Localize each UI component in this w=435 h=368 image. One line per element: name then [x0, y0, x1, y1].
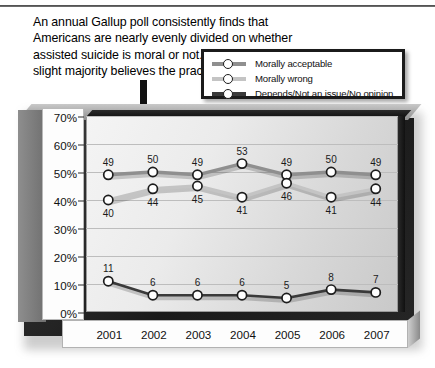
data-point-label: 41	[236, 205, 247, 216]
data-point-label: 6	[150, 277, 156, 288]
data-point-marker	[371, 184, 380, 193]
y-axis-tick-mark	[78, 173, 84, 174]
data-point-marker	[148, 291, 157, 300]
x-axis-tick-label: 2003	[186, 328, 212, 341]
y-axis-tick-mark	[78, 145, 84, 146]
legend-item-1[interactable]: Morally wrong	[212, 71, 402, 85]
data-point-marker	[148, 167, 157, 176]
y-axis-tick-label: 10%	[54, 279, 77, 292]
x-axis-tick-label: 2006	[319, 328, 345, 341]
data-point-label: 11	[103, 263, 113, 274]
data-point-marker	[282, 179, 291, 188]
data-point-label: 50	[326, 154, 337, 165]
x-axis-tick-label: 2005	[275, 328, 301, 341]
y-axis-panel: 0%10%20%30%40%50%60%70%	[42, 108, 84, 320]
data-point-marker	[237, 193, 246, 202]
legend-item-0[interactable]: Morally acceptable	[212, 56, 402, 70]
data-point-label: 40	[103, 208, 114, 219]
data-point-label: 6	[195, 277, 201, 288]
data-point-label: 41	[326, 205, 337, 216]
data-point-marker	[327, 167, 336, 176]
data-point-marker	[282, 293, 291, 302]
plot-right-edge	[398, 116, 405, 312]
data-point-label: 53	[236, 145, 247, 156]
plot-area: 495049534950494044454146414411666587	[86, 116, 398, 312]
top-divider-rule	[0, 5, 435, 7]
y-axis-tick-mark	[78, 313, 84, 314]
y-axis-tick-mark	[78, 285, 84, 286]
chart-legend: Morally acceptableMorally wrongDepends/N…	[201, 49, 405, 99]
data-point-label: 6	[239, 277, 245, 288]
legend-item-label: Morally acceptable	[255, 58, 332, 69]
data-point-marker	[371, 288, 380, 297]
chart-frame: 0%10%20%30%40%50%60%70% 4950495349504940…	[18, 104, 414, 336]
data-point-marker	[148, 184, 157, 193]
legend-swatch-icon	[212, 73, 246, 84]
data-point-label: 44	[147, 196, 158, 207]
y-axis-tick-label: 0%	[60, 307, 77, 320]
x-axis-panel: 2001200220032004200520062007	[62, 320, 408, 348]
data-point-label: 50	[147, 154, 158, 165]
y-axis-tick-mark	[78, 117, 84, 118]
x-axis-tick-label: 2007	[364, 328, 390, 341]
legend-item-label: Morally wrong	[255, 73, 313, 84]
data-point-label: 8	[328, 271, 334, 282]
y-axis-tick-mark	[78, 201, 84, 202]
x-axis-tick-label: 2001	[96, 328, 122, 341]
data-point-label: 7	[373, 274, 379, 285]
data-point-label: 49	[281, 156, 292, 167]
data-point-marker	[193, 181, 202, 190]
data-point-label: 44	[370, 196, 381, 207]
data-point-marker	[193, 170, 202, 179]
data-point-marker	[193, 291, 202, 300]
y-axis-tick-label: 30%	[54, 223, 77, 236]
y-axis-tick-label: 60%	[54, 139, 77, 152]
y-axis-tick-label: 70%	[54, 111, 77, 124]
data-point-label: 46	[281, 191, 292, 202]
data-point-marker	[104, 277, 113, 286]
data-point-marker	[104, 195, 113, 204]
x-axis-tick-label: 2002	[141, 328, 167, 341]
y-axis-tick-label: 40%	[54, 195, 77, 208]
data-point-label: 45	[192, 194, 203, 205]
legend-item-label: Depends/Not an issue/No opinion	[255, 88, 393, 99]
legend-swatch-icon	[212, 58, 246, 69]
data-point-marker	[104, 170, 113, 179]
data-point-marker	[237, 291, 246, 300]
data-point-label: 49	[192, 156, 203, 167]
data-point-label: 49	[103, 156, 114, 167]
data-point-label: 5	[284, 280, 290, 291]
data-point-marker	[237, 159, 246, 168]
data-point-marker	[327, 285, 336, 294]
y-axis-tick-label: 50%	[54, 167, 77, 180]
legend-item-2[interactable]: Depends/Not an issue/No opinion	[212, 86, 402, 100]
data-point-marker	[371, 170, 380, 179]
data-point-label: 49	[370, 156, 381, 167]
data-point-marker	[327, 193, 336, 202]
y-axis-tick-mark	[78, 229, 84, 230]
y-axis-tick-label: 20%	[54, 251, 77, 264]
legend-swatch-icon	[212, 88, 246, 99]
y-axis-tick-mark	[78, 257, 84, 258]
x-axis-tick-label: 2004	[230, 328, 256, 341]
